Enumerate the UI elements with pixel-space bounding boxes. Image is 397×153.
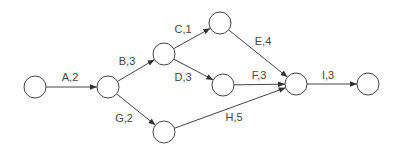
activity-label: D,3 xyxy=(174,71,191,83)
activity-label: B,3 xyxy=(119,55,136,67)
event-node xyxy=(97,76,119,98)
event-node xyxy=(153,121,175,143)
activity-arrow xyxy=(234,84,285,85)
event-node xyxy=(212,74,234,96)
event-node xyxy=(285,73,307,95)
event-node xyxy=(153,43,175,65)
activity-label: E,4 xyxy=(255,35,272,47)
network-diagram xyxy=(0,0,397,153)
event-node xyxy=(357,73,379,95)
event-node xyxy=(24,76,46,98)
activity-label: G,2 xyxy=(115,112,133,124)
activity-label: C,1 xyxy=(174,23,191,35)
activity-label: I,3 xyxy=(322,69,334,81)
activity-label: A,2 xyxy=(62,71,79,83)
activity-label: H,5 xyxy=(225,111,242,123)
activity-label: F,3 xyxy=(252,69,267,81)
event-node xyxy=(209,12,231,34)
